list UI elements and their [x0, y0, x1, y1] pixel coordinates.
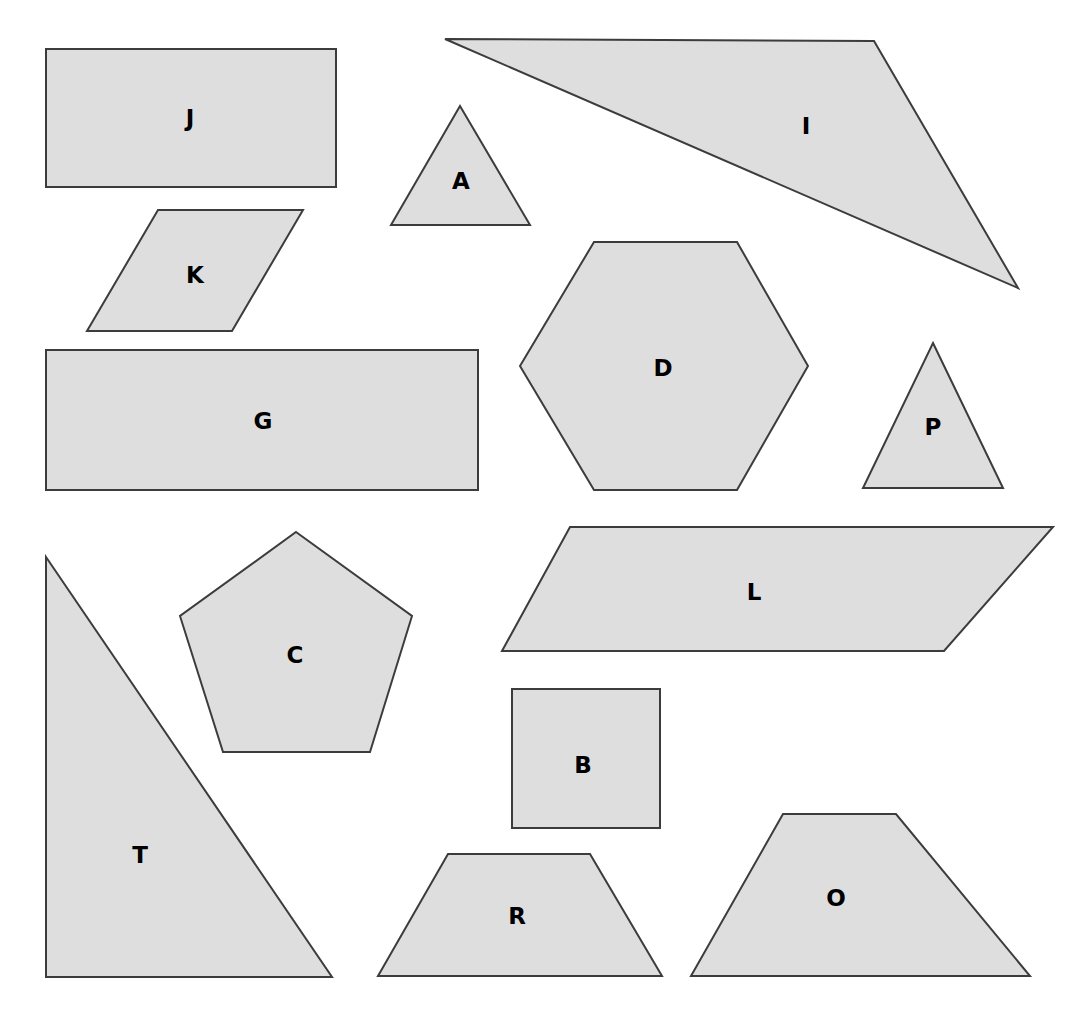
- shape-p[interactable]: P: [863, 343, 1003, 488]
- shape-label-o: O: [826, 885, 846, 911]
- shape-o-outline[interactable]: [691, 814, 1030, 976]
- shape-label-b: B: [574, 752, 592, 778]
- shape-j[interactable]: J: [46, 49, 336, 187]
- shape-label-g: G: [254, 408, 273, 434]
- shape-label-p: P: [925, 414, 942, 440]
- shape-o[interactable]: O: [691, 814, 1030, 976]
- shape-l[interactable]: L: [502, 527, 1053, 651]
- shape-label-i: I: [802, 113, 811, 139]
- shape-label-j: J: [184, 105, 195, 131]
- shape-d[interactable]: D: [520, 242, 808, 490]
- shape-label-d: D: [653, 355, 672, 381]
- shape-l-outline[interactable]: [502, 527, 1053, 651]
- shape-b[interactable]: B: [512, 689, 660, 828]
- shape-label-r: R: [508, 903, 526, 929]
- shape-k[interactable]: K: [87, 210, 303, 331]
- shapes-canvas: JIAKDPGTCLBRO: [0, 0, 1068, 1014]
- shape-c[interactable]: C: [180, 532, 412, 752]
- shape-label-a: A: [452, 168, 470, 194]
- shape-label-c: C: [287, 642, 304, 668]
- shape-r[interactable]: R: [378, 854, 662, 976]
- shape-label-l: L: [747, 579, 762, 605]
- shape-a[interactable]: A: [391, 106, 530, 225]
- shape-a-outline[interactable]: [391, 106, 530, 225]
- shape-label-t: T: [132, 842, 148, 868]
- shape-g[interactable]: G: [46, 350, 478, 490]
- shapes-svg: JIAKDPGTCLBRO: [0, 0, 1068, 1014]
- shape-label-k: K: [186, 262, 205, 288]
